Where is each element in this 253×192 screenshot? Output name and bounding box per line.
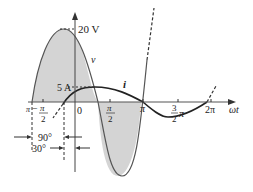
tick-label-half-pi-num: π (107, 103, 112, 113)
tick-label-three-half-pi-num: 3 (172, 103, 177, 113)
angle-90-label: 90° (38, 132, 52, 143)
current-label: i (123, 78, 127, 90)
current-peak-label: 5 A (57, 82, 72, 93)
arrowhead-icon (27, 135, 32, 139)
current-dashed-left (53, 104, 63, 118)
tick-label-neg-half-pi-num: π (40, 103, 45, 113)
arrowhead-icon (59, 146, 64, 150)
tick-label-half-pi-den: 2 (108, 114, 113, 124)
x-axis-label: ωt (229, 104, 239, 115)
voltage-peak-label: 20 V (78, 23, 100, 35)
arrowhead-icon (75, 146, 80, 150)
tick-label-neg-half-pi-den: 2 (41, 114, 46, 124)
y-axis-arrow-icon (72, 12, 78, 20)
origin-label: 0 (77, 105, 82, 116)
tick-label-neg-sign: − (32, 103, 38, 114)
phase-diagram: 20 V v 5 A i 0 − π 2 π π 2 π 3 2 π 2π ωt… (0, 0, 253, 192)
tick-label-three-half-pi-den: 2 (172, 114, 177, 124)
voltage-label: v (91, 54, 96, 65)
arrowhead-icon (64, 135, 69, 139)
angle-30-label: 30° (32, 143, 46, 154)
tick-label-left-pi: π (26, 105, 31, 114)
tick-label-two-pi: 2π (205, 104, 215, 115)
voltage-dashed-extension (147, 8, 154, 60)
